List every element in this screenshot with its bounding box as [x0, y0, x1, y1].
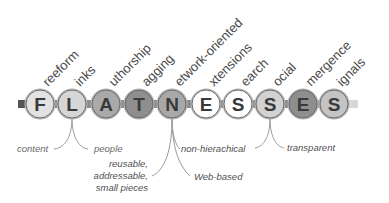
node-letter: T	[133, 94, 145, 115]
node-letter: S	[328, 94, 341, 115]
annotation-transparent: transparent	[287, 142, 335, 153]
annotation-web-based: Web-based	[194, 171, 243, 182]
node-letter: A	[99, 94, 113, 115]
node-letter: N	[165, 94, 179, 115]
annotation-content: content	[17, 143, 49, 154]
node-label: ocial	[270, 60, 300, 90]
social-connectors	[255, 118, 284, 148]
node-letter: E	[297, 94, 310, 115]
node-letter: S	[232, 94, 245, 115]
annotation-non-hierachical: non-hierachical	[181, 143, 246, 154]
links-connectors	[54, 118, 88, 149]
flatnesses-diagram: FreeformLinksAuthorshipTaggingNetwork-or…	[0, 0, 389, 203]
node-label: inks	[72, 62, 99, 89]
node-letter: S	[264, 94, 277, 115]
node-letter: F	[34, 94, 46, 115]
annotation-reusable: reusable,	[109, 158, 148, 169]
annotation-addressable: addressable,	[94, 170, 148, 181]
node-letter: L	[66, 94, 78, 115]
annotation-people: people	[93, 143, 123, 154]
node-letter: E	[200, 94, 213, 115]
annotation-small-pieces: small pieces	[96, 182, 149, 193]
